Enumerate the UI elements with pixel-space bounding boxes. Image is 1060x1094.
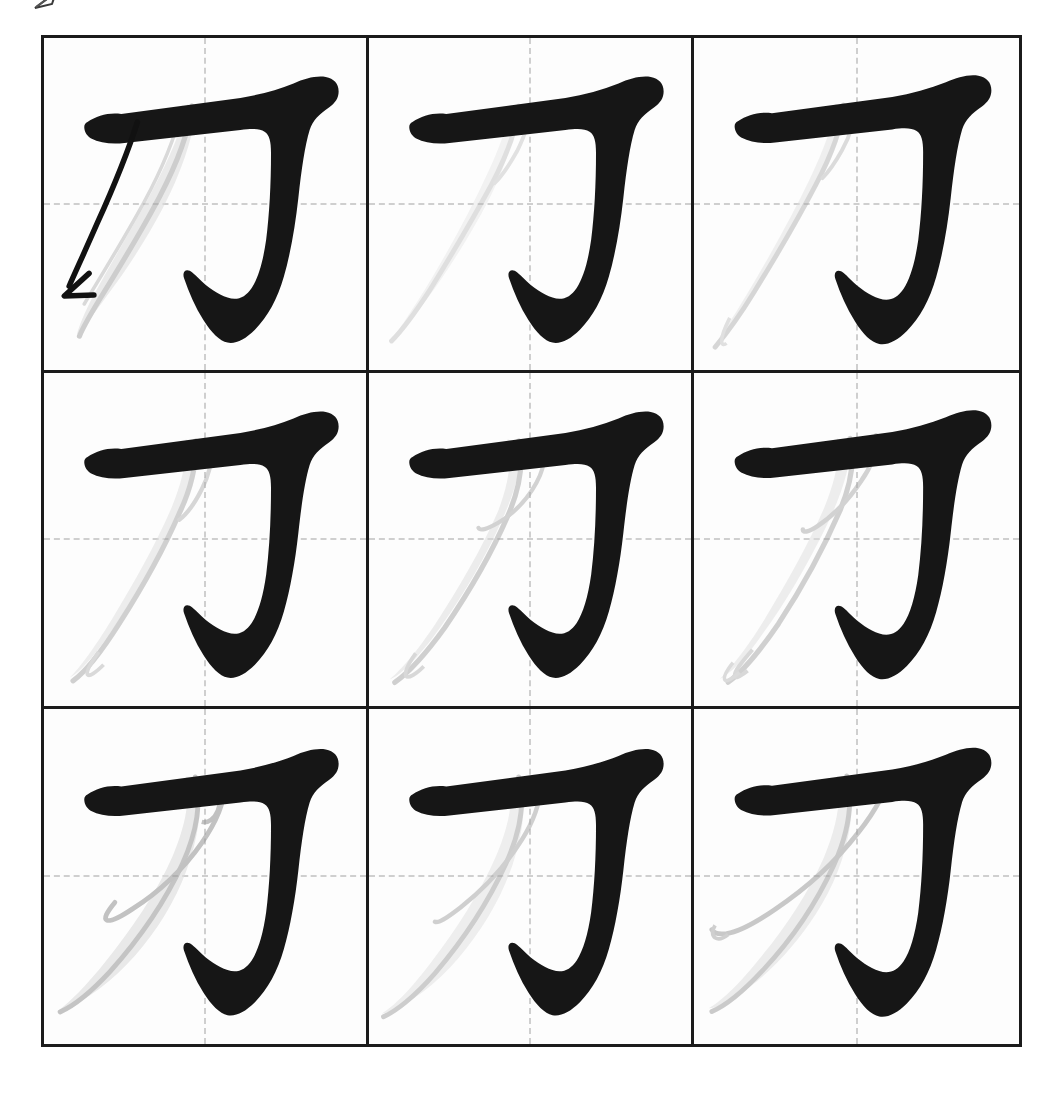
practice-cell-3[interactable] xyxy=(694,38,1019,373)
completed-stroke-heng-zhe-gou xyxy=(409,77,663,343)
practice-cell-5[interactable] xyxy=(369,373,694,708)
cropped-arrowhead-icon xyxy=(32,0,58,12)
character-glyph-dao xyxy=(44,373,366,705)
practice-sheet-page xyxy=(0,0,1060,1094)
character-glyph-dao xyxy=(369,38,691,370)
practice-cell-6[interactable] xyxy=(694,373,1019,708)
character-practice-grid xyxy=(41,35,1022,1047)
completed-stroke-heng-zhe-gou xyxy=(84,749,338,1015)
character-glyph-dao xyxy=(694,373,1019,705)
completed-stroke-heng-zhe-gou xyxy=(735,411,992,680)
completed-stroke-heng-zhe-gou xyxy=(84,412,338,678)
character-glyph-dao xyxy=(694,38,1019,370)
character-glyph-dao xyxy=(44,709,366,1044)
practice-cell-9[interactable] xyxy=(694,709,1019,1044)
practice-cell-7[interactable] xyxy=(44,709,369,1044)
completed-stroke-heng-zhe-gou xyxy=(409,412,663,678)
practice-cell-1[interactable] xyxy=(44,38,369,373)
practice-cell-2[interactable] xyxy=(369,38,694,373)
completed-stroke-heng-zhe-gou xyxy=(409,749,663,1015)
completed-stroke-heng-zhe-gou xyxy=(735,748,992,1017)
character-glyph-dao xyxy=(694,709,1019,1044)
character-glyph-dao xyxy=(44,38,366,370)
practice-cell-8[interactable] xyxy=(369,709,694,1044)
practice-cell-4[interactable] xyxy=(44,373,369,708)
character-glyph-dao xyxy=(369,709,691,1044)
completed-stroke-heng-zhe-gou xyxy=(735,75,992,344)
completed-stroke-heng-zhe-gou xyxy=(84,77,338,343)
character-glyph-dao xyxy=(369,373,691,705)
stroke-direction-arrow xyxy=(64,122,137,296)
